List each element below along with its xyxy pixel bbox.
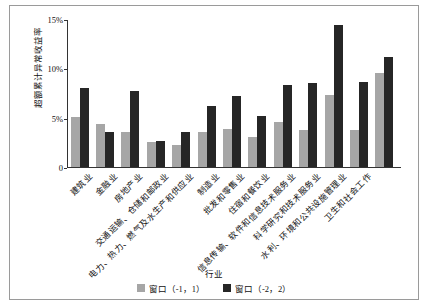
bar-group [219,20,244,167]
chart-legend: 窗口（-1，1）窗口（-2，2） [10,282,418,294]
bar-groups [67,20,397,167]
bar [274,122,283,167]
bar-group [346,20,371,167]
bar [257,116,266,167]
bar-group [245,20,270,167]
y-tick-label: 10% [47,65,63,73]
bar [96,124,105,167]
bar [248,137,257,167]
bar [384,57,393,168]
legend-item: 窗口（-1，1） [137,282,205,294]
bar [325,95,334,167]
bar [121,132,130,167]
bar [130,91,139,167]
plot-area: 05%10%15% [67,20,397,168]
legend-label: 窗口（-1，1） [149,282,205,294]
bar-group [92,20,117,167]
bar [80,88,89,167]
y-tick-label: 15% [47,16,63,24]
bar-group [118,20,143,167]
bar [375,73,384,167]
chart-container: 超额累计异常收益率 05%10%15% 建筑业金融业房地产业交通运输、仓储和邮政… [9,5,419,300]
bar [350,130,359,167]
x-axis-title: 行业 [10,267,418,279]
legend-item: 窗口（-2，2） [223,282,291,294]
bar-group [67,20,92,167]
legend-swatch [223,284,231,292]
bar [334,25,343,167]
bar [299,130,308,167]
y-axis-title: 超额累计异常收益率 [31,0,43,137]
bar [147,142,156,167]
bar [207,106,216,167]
bar-group [321,20,346,167]
bar [198,132,207,167]
y-tick-label: 0 [59,164,63,172]
bar [223,129,232,167]
bar-group [296,20,321,167]
y-tick-mark [64,168,67,169]
bar-group [372,20,397,167]
bar [232,96,241,167]
bar [156,141,165,167]
x-tick-label: 建筑业 [67,170,95,198]
bar [172,145,181,167]
bar [71,117,80,167]
bar-group [169,20,194,167]
legend-swatch [137,284,145,292]
bar [283,85,292,167]
bar-group [143,20,168,167]
bar-group [270,20,295,167]
bar [181,132,190,167]
bar [359,82,368,167]
x-axis-line [67,167,401,168]
legend-label: 窗口（-2，2） [235,282,291,294]
bar [308,83,317,167]
bar [105,132,114,167]
y-tick-label: 5% [52,115,63,123]
bar-group [194,20,219,167]
